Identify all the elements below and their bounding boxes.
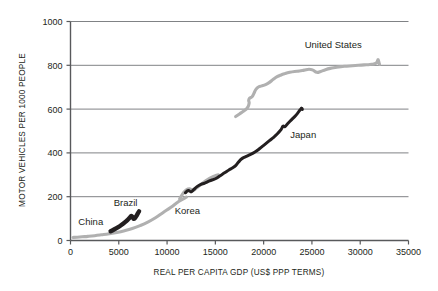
series-label-china: China: [78, 216, 104, 227]
y-tick-label-1000: 1000: [42, 17, 62, 27]
y-tick-label-0: 0: [57, 236, 62, 246]
series-line-japan: [185, 108, 302, 193]
y-axis-title: MOTOR VEHICLES PER 1000 PEOPLE: [18, 53, 27, 207]
series-label-united-states: United States: [305, 39, 362, 50]
series-lines-group: [73, 60, 380, 238]
x-tick-label-30000: 30000: [348, 247, 373, 257]
x-axis-title: REAL PER CAPITA GDP (US$ PPP TERMS): [154, 268, 325, 277]
x-tick-label-5000: 5000: [109, 247, 129, 257]
x-tick-label-10000: 10000: [155, 247, 180, 257]
chart-container: 05000100001500020000250003000035000 0200…: [0, 0, 438, 291]
series-label-brazil: Brazil: [114, 197, 138, 208]
x-tick-label-15000: 15000: [203, 247, 228, 257]
x-tick-label-0: 0: [68, 247, 73, 257]
y-tick-label-200: 200: [47, 192, 62, 202]
series-line-united-states: [236, 60, 380, 117]
motor-vehicles-vs-gdp-chart: 05000100001500020000250003000035000 0200…: [0, 0, 438, 291]
x-tick-label-20000: 20000: [251, 247, 276, 257]
y-tick-label-400: 400: [47, 148, 62, 158]
x-tick-label-25000: 25000: [299, 247, 324, 257]
x-tick-labels-group: 05000100001500020000250003000035000: [68, 247, 421, 257]
series-labels-group: ChinaBrazilKoreaJapanUnited States: [78, 39, 362, 227]
y-tick-labels-group: 02004006008001000: [42, 17, 62, 246]
y-tick-label-600: 600: [47, 105, 62, 115]
series-label-korea: Korea: [175, 205, 201, 216]
y-tick-label-800: 800: [47, 61, 62, 71]
x-tick-label-35000: 35000: [396, 247, 421, 257]
series-label-japan: Japan: [290, 129, 316, 140]
